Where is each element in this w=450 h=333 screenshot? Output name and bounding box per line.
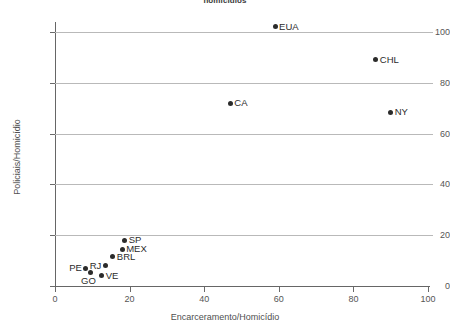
x-tick-label: 80 <box>338 294 368 304</box>
data-point-chl <box>373 57 378 62</box>
data-point-label-ca: CA <box>234 98 247 108</box>
y-axis-line <box>55 22 56 288</box>
chart-title: homicídios <box>0 0 450 5</box>
y-tick-label: 60 <box>408 129 450 139</box>
data-point-rj <box>103 263 108 268</box>
data-point-label-brl: BRL <box>117 252 135 262</box>
y-tick-label: 0 <box>408 281 450 291</box>
y-axis-title: Policiais/Homicídio <box>12 77 22 237</box>
y-tick-label: 80 <box>408 78 450 88</box>
x-tick <box>204 287 205 292</box>
x-tick <box>428 287 429 292</box>
x-tick-label: 60 <box>264 294 294 304</box>
data-point-label-ve: VE <box>106 271 119 281</box>
data-point-label-chl: CHL <box>380 55 399 65</box>
y-tick-label: 20 <box>408 230 450 240</box>
scatter-chart: homicídios 020406080100 020406080100 EUA… <box>0 0 450 333</box>
data-point-label-eua: EUA <box>279 22 299 32</box>
data-point-ca <box>228 101 233 106</box>
gridline-y <box>55 184 433 185</box>
gridline-y <box>55 32 433 33</box>
gridline-y <box>55 235 433 236</box>
data-point-eua <box>273 24 278 29</box>
x-tick-label: 0 <box>40 294 70 304</box>
x-tick-label: 40 <box>189 294 219 304</box>
data-point-label-pe: PE <box>69 263 82 273</box>
y-tick <box>50 32 55 33</box>
x-tick <box>55 287 56 292</box>
data-point-label-rj: RJ <box>90 261 102 271</box>
y-tick <box>50 134 55 135</box>
x-tick <box>353 287 354 292</box>
x-axis-title: Encarceramento/Homicídio <box>0 312 450 322</box>
data-point-sp <box>122 238 127 243</box>
x-tick <box>130 287 131 292</box>
data-point-ny <box>388 110 393 115</box>
data-point-ve <box>99 273 104 278</box>
y-tick-label: 40 <box>408 179 450 189</box>
x-tick-label: 100 <box>413 294 443 304</box>
y-tick-label: 100 <box>408 27 450 37</box>
data-point-go <box>88 270 93 275</box>
gridline-y <box>55 134 433 135</box>
x-tick-label: 20 <box>115 294 145 304</box>
x-tick <box>279 287 280 292</box>
y-tick <box>50 184 55 185</box>
data-point-label-ny: NY <box>395 107 408 117</box>
y-tick <box>50 83 55 84</box>
data-point-brl <box>110 254 115 259</box>
x-axis-line <box>50 286 430 287</box>
gridline-y <box>55 83 433 84</box>
y-tick <box>50 235 55 236</box>
data-point-label-go: GO <box>81 276 96 286</box>
